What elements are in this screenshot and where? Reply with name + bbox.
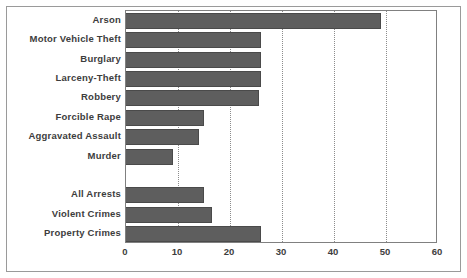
category-label: Property Crimes: [3, 227, 121, 238]
bar: [126, 52, 261, 68]
bar-row: [126, 207, 437, 223]
x-tick-label: 30: [276, 246, 287, 257]
bar: [126, 13, 381, 29]
bar: [126, 32, 261, 48]
chart-figure: ArsonMotor Vehicle TheftBurglaryLarceny-…: [0, 0, 467, 278]
bar-row: [126, 71, 437, 87]
category-label: Murder: [3, 150, 121, 161]
x-tick-label: 20: [224, 246, 235, 257]
bar-row: [126, 32, 437, 48]
x-axis-labels: 0102030405060: [0, 246, 467, 262]
category-label: Arson: [3, 14, 121, 25]
x-tick-label: 60: [432, 246, 443, 257]
x-tick-label: 10: [172, 246, 183, 257]
category-label: Larceny-Theft: [3, 72, 121, 83]
plot-area: [125, 10, 437, 243]
bar-row: [126, 149, 437, 165]
category-label: Aggravated Assault: [3, 130, 121, 141]
y-axis-labels: ArsonMotor Vehicle TheftBurglaryLarceny-…: [0, 10, 121, 243]
x-tick-label: 50: [380, 246, 391, 257]
bar: [126, 207, 212, 223]
bar-row: [126, 187, 437, 203]
bar: [126, 226, 261, 242]
bar-row: [126, 110, 437, 126]
category-label: All Arrests: [3, 188, 121, 199]
category-label: Motor Vehicle Theft: [3, 33, 121, 44]
bar-row: [126, 13, 437, 29]
bar: [126, 129, 199, 145]
bar: [126, 110, 204, 126]
bar-row: [126, 226, 437, 242]
bar: [126, 71, 261, 87]
category-label: Violent Crimes: [3, 208, 121, 219]
category-label: Forcible Rape: [3, 111, 121, 122]
bar-row: [126, 90, 437, 106]
bar: [126, 149, 173, 165]
category-label: Robbery: [3, 91, 121, 102]
x-tick-label: 0: [122, 246, 127, 257]
x-tick-label: 40: [328, 246, 339, 257]
bar: [126, 90, 259, 106]
bar-row: [126, 129, 437, 145]
bar: [126, 187, 204, 203]
category-label: Burglary: [3, 53, 121, 64]
bar-row: [126, 52, 437, 68]
